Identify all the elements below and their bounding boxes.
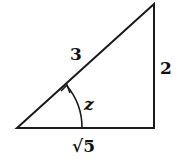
hypotenuse-label: 3 [70, 46, 82, 63]
angle-label: z [84, 96, 94, 113]
opposite-side-label: 2 [160, 60, 172, 77]
adjacent-side-label: √5 [72, 138, 95, 155]
